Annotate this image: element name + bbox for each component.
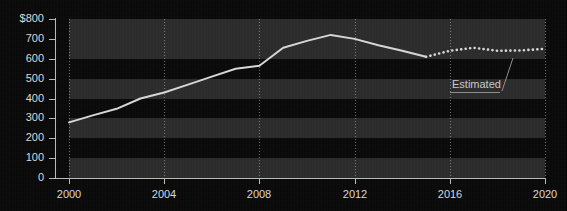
leader-line <box>502 58 513 91</box>
estimated-leader-line <box>0 0 567 211</box>
chart-screenshot: 0100200300400500600700$800 2000200420082… <box>0 0 567 211</box>
